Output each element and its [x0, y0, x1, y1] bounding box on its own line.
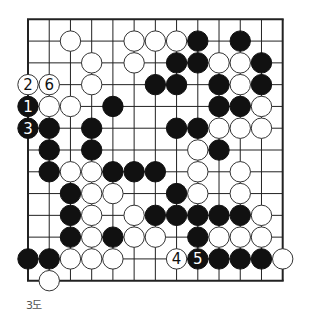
black-stone [124, 162, 144, 182]
white-stone [251, 118, 271, 138]
white-stone: 4 [166, 249, 186, 269]
black-stone [188, 118, 208, 138]
move-number-label: 3 [23, 120, 33, 138]
black-stone [230, 31, 250, 51]
white-stone [124, 205, 144, 225]
go-board: 261345 [0, 0, 311, 318]
white-stone [81, 53, 101, 73]
white-stone [145, 227, 165, 247]
diagram-caption: 3도 [26, 296, 42, 312]
black-stone [188, 227, 208, 247]
black-stone [209, 205, 229, 225]
white-stone [145, 31, 165, 51]
white-stone [81, 227, 101, 247]
black-stone [251, 249, 271, 269]
black-stone [39, 140, 59, 160]
black-stone [145, 162, 165, 182]
black-stone [230, 249, 250, 269]
white-stone [81, 183, 101, 203]
black-stone: 5 [188, 249, 208, 269]
white-stone: 6 [39, 74, 59, 94]
black-stone [81, 118, 101, 138]
black-stone [166, 205, 186, 225]
black-stone: 1 [18, 96, 38, 116]
black-stone [209, 140, 229, 160]
white-stone [124, 53, 144, 73]
white-stone [103, 249, 123, 269]
black-stone [166, 118, 186, 138]
white-stone [81, 162, 101, 182]
white-stone [230, 162, 250, 182]
black-stone [81, 140, 101, 160]
black-stone [145, 74, 165, 94]
white-stone [81, 205, 101, 225]
move-number-label: 4 [172, 250, 182, 268]
black-stone [103, 162, 123, 182]
black-stone [209, 96, 229, 116]
white-stone [60, 162, 80, 182]
move-number-label: 5 [193, 250, 203, 268]
white-stone [166, 31, 186, 51]
black-stone [166, 53, 186, 73]
black-stone [209, 249, 229, 269]
black-stone [166, 74, 186, 94]
white-stone [124, 31, 144, 51]
black-stone [209, 74, 229, 94]
white-stone [39, 271, 59, 291]
black-stone [251, 53, 271, 73]
white-stone [188, 183, 208, 203]
white-stone [273, 249, 293, 269]
black-stone [188, 205, 208, 225]
white-stone [209, 227, 229, 247]
black-stone [60, 227, 80, 247]
white-stone [60, 96, 80, 116]
white-stone [251, 227, 271, 247]
white-stone [60, 31, 80, 51]
black-stone [145, 205, 165, 225]
white-stone [188, 140, 208, 160]
white-stone [251, 205, 271, 225]
black-stone [60, 183, 80, 203]
black-stone [39, 162, 59, 182]
white-stone [230, 118, 250, 138]
black-stone [39, 118, 59, 138]
black-stone [188, 31, 208, 51]
black-stone [166, 183, 186, 203]
white-stone [209, 53, 229, 73]
white-stone [230, 53, 250, 73]
white-stone [81, 74, 101, 94]
white-stone [209, 118, 229, 138]
black-stone [18, 249, 38, 269]
move-number-label: 6 [44, 76, 54, 94]
white-stone [81, 249, 101, 269]
white-stone [230, 74, 250, 94]
white-stone [251, 96, 271, 116]
black-stone [188, 53, 208, 73]
black-stone [39, 249, 59, 269]
white-stone [230, 227, 250, 247]
black-stone: 3 [18, 118, 38, 138]
white-stone: 2 [18, 74, 38, 94]
black-stone [230, 205, 250, 225]
black-stone [251, 74, 271, 94]
black-stone [60, 205, 80, 225]
black-stone [103, 227, 123, 247]
white-stone [39, 96, 59, 116]
move-number-label: 2 [23, 76, 33, 94]
white-stone [188, 162, 208, 182]
white-stone [60, 249, 80, 269]
white-stone [230, 183, 250, 203]
move-number-label: 1 [23, 98, 33, 116]
white-stone [103, 183, 123, 203]
white-stone [124, 227, 144, 247]
black-stone [103, 96, 123, 116]
black-stone [230, 96, 250, 116]
